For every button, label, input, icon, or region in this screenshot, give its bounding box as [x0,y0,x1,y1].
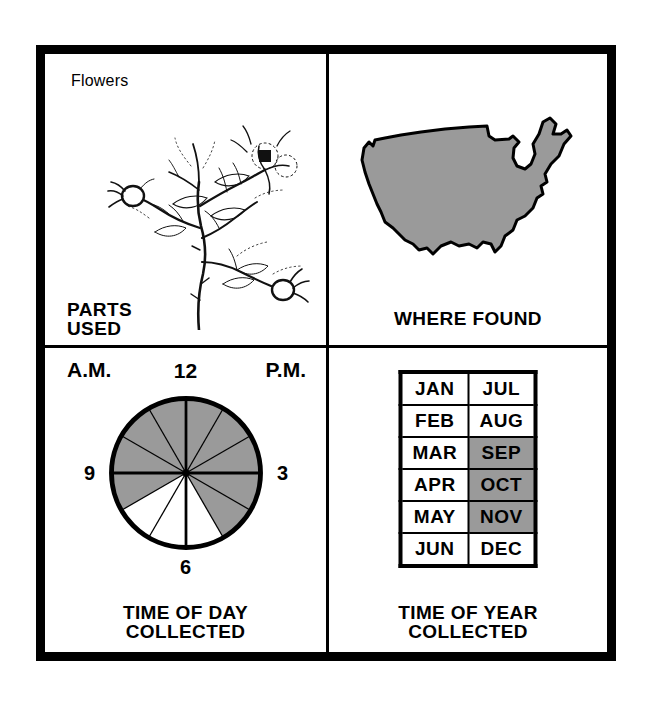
month-table: JANJULFEBAUGMARSEPAPROCTMAYNOVJUNDEC [399,370,538,568]
month-cell-aug: AUG [468,405,535,437]
where-found-caption: WHERE FOUND [329,309,607,329]
table-row: MAYNOV [401,501,536,533]
field-guide-plate: Flowers [0,0,650,706]
time-of-year-caption: TIME OF YEAR COLLECTED [329,603,607,643]
hour-label-9: 9 [84,462,95,485]
plate-frame: Flowers [36,45,616,661]
month-cell-jan: JAN [401,372,469,405]
parts-used-caption: PARTS USED [67,300,132,340]
month-cell-mar: MAR [401,437,469,469]
month-cell-apr: APR [401,469,469,501]
month-cell-jun: JUN [401,533,469,566]
panel-time-of-day: A.M. P.M. 12 9 3 6 [45,348,326,652]
month-cell-dec: DEC [468,533,535,566]
clock-diagram: A.M. P.M. 12 9 3 6 [45,348,326,598]
month-cell-feb: FEB [401,405,469,437]
hour-label-12: 12 [45,359,326,383]
table-row: JUNDEC [401,533,536,566]
table-row: MARSEP [401,437,536,469]
time-of-day-pie [105,392,267,554]
month-cell-oct: OCT [468,469,535,501]
hour-label-6: 6 [45,556,326,579]
table-row: APROCT [401,469,536,501]
table-row: JANJUL [401,372,536,405]
usa-map-icon [355,112,583,272]
panel-parts-used: Flowers [45,54,326,345]
month-cell-nov: NOV [468,501,535,533]
month-cell-jul: JUL [468,372,535,405]
table-row: FEBAUG [401,405,536,437]
time-of-day-caption: TIME OF DAY COLLECTED [45,603,326,643]
panel-time-of-year: JANJULFEBAUGMARSEPAPROCTMAYNOVJUNDEC TIM… [329,348,607,652]
hour-label-3: 3 [277,462,288,485]
panel-where-found: WHERE FOUND [329,54,607,345]
month-cell-may: MAY [401,501,469,533]
plant-illustration [87,78,313,330]
month-cell-sep: SEP [468,437,535,469]
